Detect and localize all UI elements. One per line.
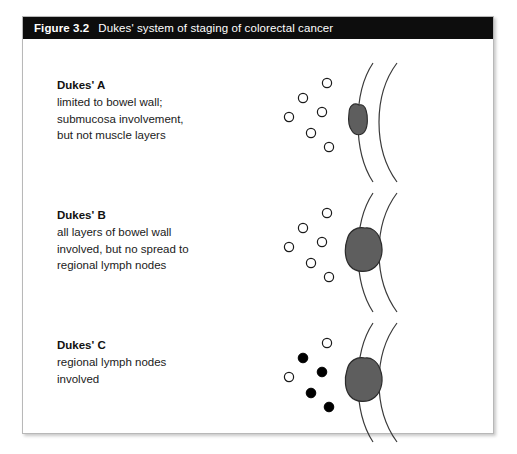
tumor-mass	[345, 228, 382, 272]
tumor-mass	[349, 104, 368, 135]
bowel-diagram-dukes-c	[281, 317, 461, 448]
stage-text-dukes-b: Dukes' B all layers of bowel wall involv…	[57, 207, 287, 274]
stage-label: Dukes' C	[57, 337, 287, 354]
stage-label: Dukes' A	[57, 77, 287, 94]
stage-description: regional lymph nodes involved	[57, 354, 287, 387]
lymph-node	[284, 112, 293, 121]
stage-description-line: regional lymph nodes	[57, 257, 287, 274]
lymph-node-involved	[324, 402, 334, 412]
stages-list: Dukes' A limited to bowel wall; submucos…	[23, 39, 493, 434]
stage-text-dukes-c: Dukes' C regional lymph nodes involved	[57, 337, 287, 387]
lymph-node	[284, 372, 293, 381]
stage-description-line: involved	[57, 371, 287, 388]
lymph-node-involved	[317, 367, 327, 377]
lymph-node	[322, 208, 331, 217]
outer-wall-line	[379, 63, 397, 182]
stage-description-line: regional lymph nodes	[57, 354, 287, 371]
lymph-node	[324, 272, 333, 281]
lymph-nodes-group	[284, 78, 333, 151]
lymph-node-involved	[306, 388, 316, 398]
figure-title: Dukes' system of staging of colorectal c…	[98, 22, 333, 34]
stage-description: all layers of bowel wall involved, but n…	[57, 224, 287, 274]
stage-description: limited to bowel wall; submucosa involve…	[57, 94, 287, 144]
lymph-node	[317, 107, 326, 116]
lymph-node	[322, 78, 331, 87]
stage-row-dukes-c: Dukes' C regional lymph nodes involved	[23, 317, 493, 448]
lymph-node	[322, 338, 331, 347]
lymph-node-involved	[298, 353, 308, 363]
lymph-node	[324, 142, 333, 151]
lymph-nodes-group	[284, 338, 333, 411]
stage-description-line: all layers of bowel wall	[57, 224, 287, 241]
lymph-node	[306, 128, 315, 137]
stage-row-dukes-b: Dukes' B all layers of bowel wall involv…	[23, 187, 493, 318]
figure-number: Figure 3.2	[34, 22, 89, 34]
lymph-node	[317, 237, 326, 246]
stage-row-dukes-a: Dukes' A limited to bowel wall; submucos…	[23, 57, 493, 188]
figure-title-bar: Figure 3.2 Dukes' system of staging of c…	[23, 17, 493, 39]
tumor-mass	[345, 358, 382, 402]
lymph-node	[298, 223, 307, 232]
bowel-diagram-dukes-b	[281, 187, 461, 318]
bowel-diagram-dukes-a	[281, 57, 461, 188]
lymph-node	[284, 242, 293, 251]
stage-description-line: but not muscle layers	[57, 127, 287, 144]
lymph-node	[298, 93, 307, 102]
figure-container: Figure 3.2 Dukes' system of staging of c…	[22, 16, 494, 434]
stage-text-dukes-a: Dukes' A limited to bowel wall; submucos…	[57, 77, 287, 144]
stage-label: Dukes' B	[57, 207, 287, 224]
stage-description-line: involved, but no spread to	[57, 241, 287, 258]
stage-description-line: submucosa involvement,	[57, 111, 287, 128]
lymph-node	[306, 258, 315, 267]
lymph-nodes-group	[284, 208, 333, 281]
stage-description-line: limited to bowel wall;	[57, 94, 287, 111]
